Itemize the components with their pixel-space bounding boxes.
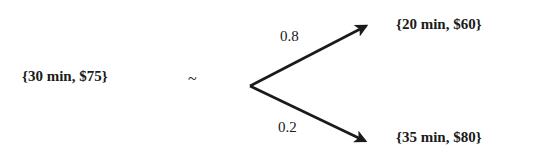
- upper-branch-probability: 0.8: [280, 28, 299, 45]
- lower-branch-outcome: {35 min, $80}: [396, 129, 482, 146]
- certain-option-label: {30 min, $75}: [22, 68, 108, 85]
- upper-branch-arrow: [250, 26, 366, 86]
- lower-branch-arrow: [250, 86, 365, 141]
- equivalence-symbol: ~: [188, 70, 197, 88]
- lower-branch-probability: 0.2: [278, 119, 297, 136]
- upper-branch-outcome: {20 min, $60}: [396, 16, 482, 33]
